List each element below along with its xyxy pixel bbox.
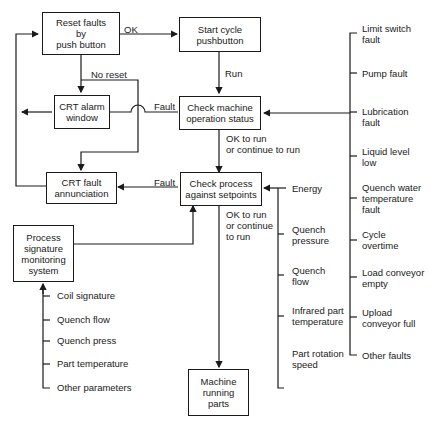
ok-to-run-label-2: OK to run or continue to run [226,209,273,242]
fault-item: Upload conveyor full [362,307,415,329]
signature-param-item: Part temperature [57,358,128,369]
ok-to-run-label-1: OK to run or continue to run [226,133,300,155]
crt-fault-annunciation-box: CRT fault annunciation [46,172,117,204]
check-process-box: Check process against setpoints [180,172,262,206]
signature-param-item: Other parameters [57,382,131,393]
machine-running-box: Machine running parts [188,369,249,416]
setpoint-item: Quench flow [292,265,325,287]
ok-label: OK [124,24,138,35]
fault-item: Lubrication fault [362,106,408,128]
fault-item: Cycle overtime [362,229,398,251]
fault-item: Other faults [362,350,411,361]
fault-item: Quench water temperature fault [362,182,421,215]
no-reset-label: No reset [91,69,127,80]
setpoint-item: Quench pressure [292,224,329,246]
signature-param-item: Coil signature [57,290,115,301]
fault-label-process: Fault [154,177,175,188]
setpoint-item: Part rotation speed [292,348,344,370]
crt-alarm-window-box: CRT alarm window [54,95,110,129]
reset-faults-box: Reset faults by push button [42,12,120,55]
signature-param-item: Quench press [57,335,116,346]
check-machine-box: Check machine operation status [179,96,261,130]
fault-item: Load conveyor empty [362,267,424,289]
setpoint-item: Infrared part temperature [292,305,344,327]
start-cycle-box: Start cycle pushbutton [179,17,261,52]
signature-param-item: Quench flow [57,314,110,325]
run-label: Run [225,68,242,79]
fault-item: Pump fault [362,68,407,79]
fault-item: Liquid level low [362,146,410,168]
fault-label-machine: Fault [154,101,175,112]
setpoint-item: Energy [292,183,322,194]
fault-item: Limit switch fault [362,23,411,45]
process-signature-box: Process signature monitoring system [13,225,74,282]
